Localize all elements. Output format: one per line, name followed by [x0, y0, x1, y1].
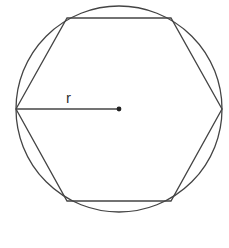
radius-label: r	[66, 89, 71, 106]
inscribed-hexagon-diagram: r	[0, 0, 229, 248]
background	[0, 0, 229, 248]
center-point	[117, 107, 122, 112]
